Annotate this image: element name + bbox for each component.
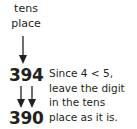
explanation-text: Since 4 < 5, leave the digit in the tens… (49, 66, 125, 124)
down-arrow-icon-tens-digit (28, 86, 36, 108)
explanation-line-2: leave the digit (49, 81, 125, 96)
explanation-line-1: Since 4 < 5, (49, 66, 125, 81)
rounded-number: 390 (9, 109, 44, 127)
explanation-line-3: in the tens (49, 95, 125, 110)
down-arrow-icon-tens (19, 36, 27, 64)
explanation-line-4: place as it is. (49, 110, 125, 125)
original-number: 394 (9, 66, 44, 84)
down-arrow-icon-hundreds (17, 86, 25, 108)
